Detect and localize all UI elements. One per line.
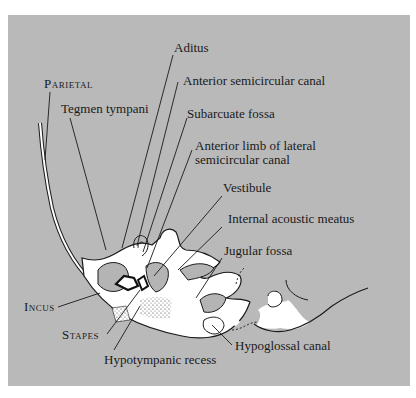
label-internal-acoustic-meatus: Internal acoustic meatus bbox=[228, 212, 354, 226]
label-parietal: Parietal bbox=[44, 77, 93, 91]
label-tegmen-tympani: Tegmen tympani bbox=[61, 102, 149, 116]
label-stapes: Stapes bbox=[62, 328, 99, 342]
label-hypoglossal-canal: Hypoglossal canal bbox=[235, 339, 331, 353]
label-anterior-limb-line1: Anterior limb of lateral bbox=[195, 139, 316, 153]
label-anterior-limb-line2: semicircular canal bbox=[195, 153, 290, 167]
label-aditus: Aditus bbox=[174, 41, 209, 55]
label-vestibule: Vestibule bbox=[223, 181, 271, 195]
label-jugular-fossa: Jugular fossa bbox=[224, 244, 292, 258]
label-hypotympanic-recess: Hypotympanic recess bbox=[104, 353, 216, 367]
label-subarcuate-fossa: Subarcuate fossa bbox=[187, 107, 275, 121]
label-incus: Incus bbox=[24, 300, 55, 314]
label-anterior-semicircular-canal: Anterior semicircular canal bbox=[183, 74, 325, 88]
